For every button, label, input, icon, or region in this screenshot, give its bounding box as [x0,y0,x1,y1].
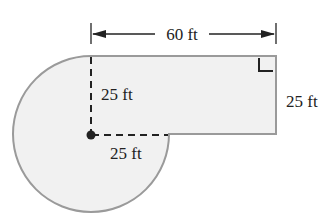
arrowhead-right-icon [261,30,275,38]
label-vertical-radius: 25 ft [101,85,133,104]
composite-figure: 60 ft 25 ft 25 ft 25 ft [0,0,326,217]
arrowhead-left-icon [92,30,106,38]
label-width-60ft: 60 ft [166,25,198,44]
center-dot-icon [87,131,96,140]
label-right-height: 25 ft [286,92,318,111]
label-horizontal-radius: 25 ft [110,144,142,163]
